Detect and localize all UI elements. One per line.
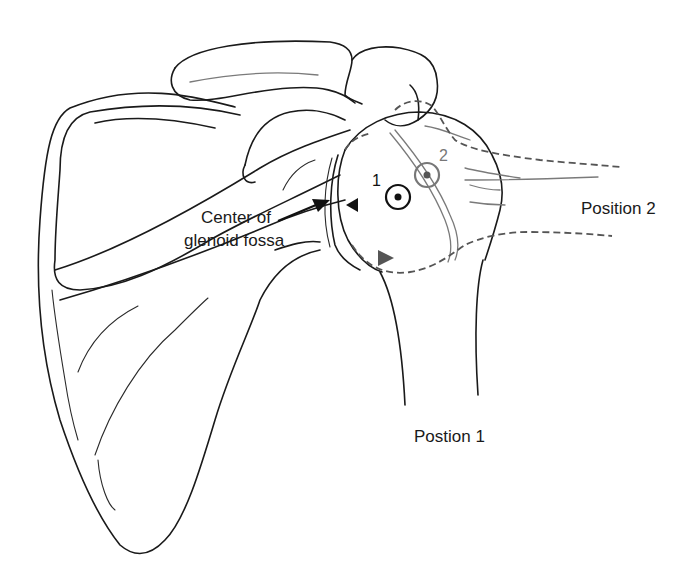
position-1-label: Postion 1 — [414, 427, 485, 447]
clavicle — [171, 41, 437, 182]
humerus-position-1 — [338, 112, 520, 405]
triangle-marker-gray — [378, 250, 394, 266]
marker-position-1 — [386, 185, 410, 209]
marker-1-label: 1 — [372, 173, 381, 189]
glenoid-label-line1: Center of — [201, 208, 271, 228]
scapula — [38, 93, 350, 554]
diagram-drawing — [0, 0, 696, 575]
glenoid-label-line2: glenoid fossa — [184, 231, 284, 251]
humerus-position-2 — [345, 101, 620, 273]
glenoid-rim — [325, 155, 360, 270]
marker-2-label: 2 — [439, 148, 448, 164]
shoulder-diagram: 1 2 Center of glenoid fossa Position 2 P… — [0, 0, 696, 575]
triangle-marker-black — [346, 198, 358, 212]
position-2-label: Position 2 — [581, 199, 656, 219]
